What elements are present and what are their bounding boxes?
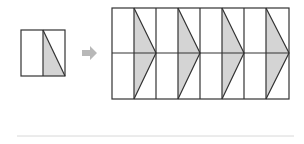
source-tile (21, 30, 65, 76)
pattern-diagram (0, 0, 304, 144)
result-grid (112, 8, 289, 99)
right-arrow-icon (82, 46, 97, 60)
